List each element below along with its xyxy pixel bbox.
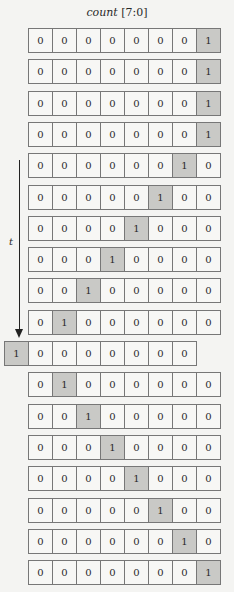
count-row: 00001000	[28, 216, 220, 241]
bit-cell: 1	[172, 153, 197, 178]
bit-cell: 0	[76, 122, 101, 147]
bit-cell: 0	[52, 278, 77, 303]
bit-cell: 0	[76, 59, 101, 84]
bit-cell: 0	[196, 372, 221, 397]
bit-cell: 0	[76, 28, 101, 53]
bit-cell: 1	[172, 529, 197, 554]
bit-cell: 0	[124, 91, 149, 116]
bit-cell: 0	[196, 435, 221, 460]
bit-cell: 0	[172, 185, 197, 210]
bit-cell: 0	[28, 122, 53, 147]
bit-cell: 0	[124, 498, 149, 523]
bit-cell: 0	[196, 498, 221, 523]
bit-cell: 0	[196, 466, 221, 491]
bit-cell: 0	[124, 122, 149, 147]
bit-cell: 0	[124, 435, 149, 460]
bit-cell: 0	[76, 341, 101, 366]
bit-cell: 0	[124, 247, 149, 272]
bit-cell: 0	[196, 185, 221, 210]
time-axis-line	[19, 160, 20, 330]
bit-cell: 0	[76, 91, 101, 116]
count-row: 00000010	[28, 529, 220, 554]
bit-cell: 0	[148, 372, 173, 397]
bit-cell: 0	[52, 560, 77, 585]
bit-cell: 1	[4, 341, 29, 366]
bit-cell: 0	[148, 341, 173, 366]
bit-cell: 0	[196, 216, 221, 241]
bit-cell: 0	[100, 216, 125, 241]
bit-cell: 0	[52, 498, 77, 523]
bit-cell: 0	[28, 372, 53, 397]
bit-cell: 0	[148, 466, 173, 491]
bit-cell: 1	[52, 372, 77, 397]
bit-cell: 1	[100, 435, 125, 460]
bit-cell: 0	[100, 372, 125, 397]
bit-cell: 1	[124, 216, 149, 241]
bit-cell: 0	[196, 278, 221, 303]
bit-cell: 0	[148, 28, 173, 53]
count-row: 00000001	[28, 28, 220, 53]
bit-cell: 0	[148, 310, 173, 335]
bit-cell: 0	[196, 247, 221, 272]
bit-cell: 0	[172, 310, 197, 335]
bit-cell: 0	[28, 185, 53, 210]
bit-cell: 0	[52, 216, 77, 241]
bit-cell: 0	[100, 466, 125, 491]
bit-cell: 0	[28, 153, 53, 178]
count-row: 00100000	[28, 278, 220, 303]
bit-cell: 0	[100, 91, 125, 116]
bit-cell: 1	[76, 278, 101, 303]
bit-cell: 1	[100, 247, 125, 272]
bit-cell: 0	[52, 341, 77, 366]
bit-cell: 0	[100, 498, 125, 523]
signal-name: count	[86, 6, 117, 19]
bit-cell: 0	[52, 466, 77, 491]
count-row: 00000100	[28, 498, 220, 523]
bit-cell: 1	[196, 28, 221, 53]
bit-cell: 0	[124, 310, 149, 335]
bit-cell: 0	[76, 560, 101, 585]
bit-cell: 0	[172, 341, 197, 366]
bit-cell: 0	[124, 372, 149, 397]
bit-cell: 0	[100, 59, 125, 84]
bit-cell: 0	[172, 216, 197, 241]
bit-cell: 0	[76, 466, 101, 491]
bit-cell: 0	[172, 59, 197, 84]
bit-cell: 0	[28, 498, 53, 523]
bit-cell: 1	[196, 122, 221, 147]
bit-cell: 0	[52, 247, 77, 272]
bit-cell: 1	[76, 404, 101, 429]
count-row: 00000010	[28, 153, 220, 178]
bit-cell: 0	[28, 28, 53, 53]
bit-cell: 0	[100, 28, 125, 53]
count-row: 00000001	[28, 59, 220, 84]
bit-cell: 0	[196, 310, 221, 335]
bit-cell: 0	[124, 341, 149, 366]
bit-range: [7:0]	[118, 6, 148, 19]
bit-cell: 0	[148, 404, 173, 429]
bit-cell: 0	[52, 404, 77, 429]
bit-cell: 0	[28, 560, 53, 585]
bit-cell: 0	[76, 435, 101, 460]
count-row: 01000000	[28, 372, 220, 397]
count-row: 01000000	[28, 310, 220, 335]
bit-cell: 0	[28, 247, 53, 272]
count-row: 00010000	[28, 247, 220, 272]
bit-cell: 0	[28, 435, 53, 460]
bit-cell: 0	[28, 529, 53, 554]
bit-cell: 0	[172, 122, 197, 147]
bit-cell: 1	[196, 560, 221, 585]
bit-cell: 1	[124, 466, 149, 491]
bit-cell: 0	[52, 185, 77, 210]
bit-cell: 0	[172, 498, 197, 523]
bit-cell: 0	[76, 153, 101, 178]
bit-cell: 0	[148, 529, 173, 554]
count-row: 00000001	[28, 122, 220, 147]
bit-cell: 0	[28, 278, 53, 303]
bit-cell: 0	[124, 153, 149, 178]
bit-cell: 1	[52, 310, 77, 335]
bit-cell: 0	[52, 28, 77, 53]
bit-cell: 0	[52, 59, 77, 84]
count-row: 00010000	[28, 435, 220, 460]
bit-cell: 0	[172, 278, 197, 303]
